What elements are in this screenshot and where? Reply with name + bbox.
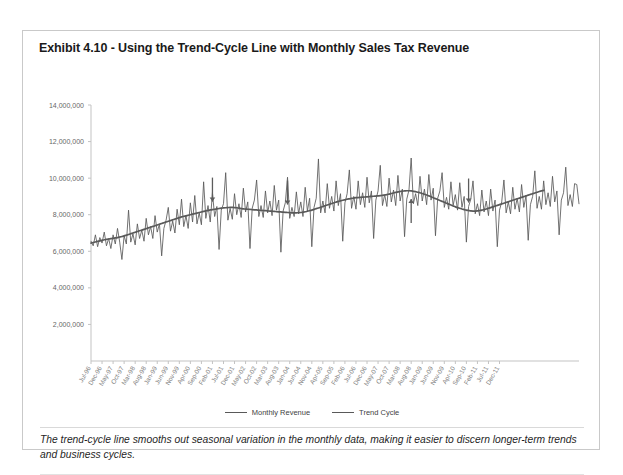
caption-divider	[40, 427, 584, 428]
legend-swatch-trend-cycle	[332, 412, 354, 413]
chart-legend: Monthly Revenue Trend Cycle	[23, 403, 601, 421]
y-tick-labels: 2,000,0004,000,0006,000,0008,000,00010,0…	[49, 102, 84, 328]
trend-dip-marker-2-icon	[285, 181, 291, 205]
chart-plot-area: 2,000,0004,000,0006,000,0008,000,00010,0…	[23, 63, 601, 403]
y-tick-label: 12,000,000	[49, 138, 84, 145]
exhibit-title: Exhibit 4.10 - Using the Trend-Cycle Lin…	[39, 41, 469, 55]
legend-swatch-monthly-revenue	[225, 412, 247, 413]
x-axis: Jul-96Dec-96May-97Oct-97Mar-98Aug-98Jan-…	[77, 361, 579, 387]
y-tick-label: 6,000,000	[53, 248, 84, 255]
legend-entry-monthly-revenue: Monthly Revenue	[225, 408, 310, 417]
y-tick-label: 14,000,000	[49, 102, 84, 109]
y-tick-label: 2,000,000	[53, 321, 84, 328]
legend-label-monthly-revenue: Monthly Revenue	[252, 408, 310, 417]
y-tick-label: 4,000,000	[53, 284, 84, 291]
exhibit-caption: The trend-cycle line smooths out seasona…	[40, 433, 588, 463]
arrow-head	[210, 198, 216, 202]
y-tick-label: 10,000,000	[49, 175, 84, 182]
trend-dip-marker-1-icon	[210, 178, 216, 202]
exhibit-frame: Exhibit 4.10 - Using the Trend-Cycle Lin…	[22, 30, 600, 450]
legend-entry-trend-cycle: Trend Cycle	[332, 408, 399, 417]
y-axis: 2,000,0004,000,0006,000,0008,000,00010,0…	[49, 102, 91, 361]
legend-label-trend-cycle: Trend Cycle	[359, 408, 399, 417]
y-tick-label: 8,000,000	[53, 211, 84, 218]
chart-svg: 2,000,0004,000,0006,000,0008,000,00010,0…	[23, 63, 601, 403]
trend-dip-marker-3-icon	[466, 179, 472, 203]
trend-rise-marker-1-icon	[408, 199, 414, 223]
series-monthly-revenue	[91, 158, 579, 259]
series-trend-cycle	[91, 190, 544, 243]
x-tick-labels: Jul-96Dec-96May-97Oct-97Mar-98Aug-98Jan-…	[77, 365, 500, 388]
